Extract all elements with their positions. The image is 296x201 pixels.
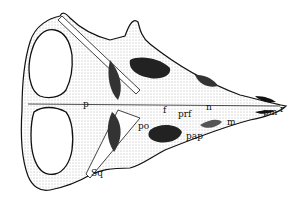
label-f: f — [163, 106, 166, 115]
upper-fenestra-right — [31, 108, 73, 175]
label-po: po — [138, 122, 149, 131]
label-pm: pm — [263, 108, 277, 117]
label-n: n — [206, 103, 212, 112]
label-p: p — [83, 100, 89, 109]
skull-figure: p po f prf n m pm r pap Sq — [0, 0, 296, 201]
label-pap: pap — [186, 132, 203, 141]
label-r: r — [280, 105, 284, 114]
label-m: m — [227, 118, 236, 127]
label-sq: Sq — [91, 169, 103, 178]
skull-drawing — [0, 0, 296, 201]
label-prf: prf — [178, 110, 191, 119]
